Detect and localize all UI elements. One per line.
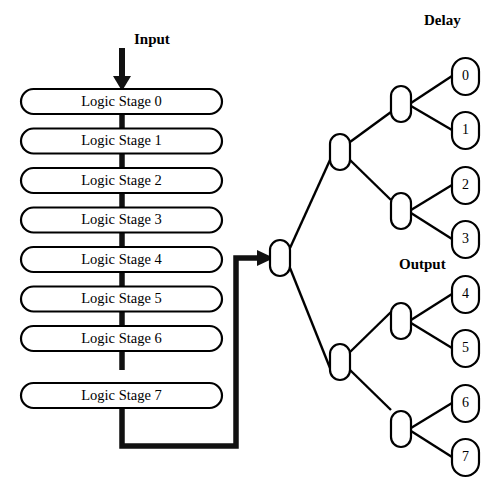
tree-leaf-2[interactable]: 2 (452, 167, 479, 204)
tree-node-level3-3[interactable] (391, 411, 411, 447)
logic-stage-5[interactable]: Logic Stage 5 (21, 287, 222, 312)
input-label: Input (134, 31, 170, 47)
logic-stage-3[interactable]: Logic Stage 3 (21, 208, 222, 233)
tree-leaf-3-label: 3 (462, 231, 469, 246)
logic-stage-0[interactable]: Logic Stage 0 (21, 89, 222, 114)
logic-stage-0-label: Logic Stage 0 (81, 93, 162, 109)
tree-node-level3-0[interactable] (391, 86, 411, 122)
diagram-canvas: Input Logic Stage 0 Logic Stage 1 (0, 0, 495, 493)
tree-leaf-2-label: 2 (462, 177, 469, 192)
tree-node-level2-1[interactable] (330, 344, 350, 380)
tree-leaf-0[interactable]: 0 (452, 58, 479, 95)
tree-leaf-4-label: 4 (462, 286, 469, 301)
tree-leaf-5[interactable]: 5 (452, 330, 479, 367)
tree-node-root[interactable] (270, 240, 290, 276)
logic-stage-6[interactable]: Logic Stage 6 (21, 326, 222, 351)
logic-stage-1-label: Logic Stage 1 (81, 132, 162, 148)
tree-leaf-1-label: 1 (462, 122, 469, 137)
pipeline-tree-diagram: Input Logic Stage 0 Logic Stage 1 (0, 0, 495, 493)
tree-node-level3-2[interactable] (391, 303, 411, 339)
logic-stage-7-label: Logic Stage 7 (81, 387, 162, 403)
logic-stage-2[interactable]: Logic Stage 2 (21, 168, 222, 193)
logic-stage-6-label: Logic Stage 6 (81, 330, 162, 346)
input-arrow (113, 48, 131, 91)
tree-node-level2-0[interactable] (330, 134, 350, 170)
tree-leaf-1[interactable]: 1 (452, 112, 479, 149)
logic-stage-4[interactable]: Logic Stage 4 (21, 247, 222, 272)
tree-leaf-6[interactable]: 6 (452, 385, 479, 422)
tree-leaf-0-label: 0 (462, 68, 469, 83)
tree-leaf-3[interactable]: 3 (452, 221, 479, 258)
tree-nodes: 0 1 2 3 4 5 6 (270, 58, 479, 476)
logic-stage-7[interactable]: Logic Stage 7 (21, 383, 222, 408)
output-label: Output (399, 256, 446, 272)
tree-leaf-4[interactable]: 4 (452, 276, 479, 313)
tree-node-level3-1[interactable] (391, 193, 411, 229)
logic-stage-1[interactable]: Logic Stage 1 (21, 129, 222, 154)
tree-leaf-5-label: 5 (462, 340, 469, 355)
tree-leaf-6-label: 6 (462, 395, 469, 410)
tree-leaf-7[interactable]: 7 (452, 439, 479, 476)
logic-stage-5-label: Logic Stage 5 (81, 290, 162, 306)
logic-stage-3-label: Logic Stage 3 (81, 211, 162, 227)
logic-stage-2-label: Logic Stage 2 (81, 172, 162, 188)
tree-leaf-7-label: 7 (462, 449, 469, 464)
logic-stage-4-label: Logic Stage 4 (81, 251, 162, 267)
delay-label: Delay (424, 12, 461, 28)
